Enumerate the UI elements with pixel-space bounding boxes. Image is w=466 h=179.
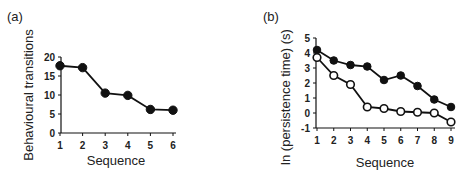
x-tick-label: 5 [148,140,154,151]
y-tick-label: 5 [304,33,310,44]
y-tick-label: 5 [49,109,55,120]
x-tick-label: 4 [125,140,131,151]
data-point [330,72,338,80]
x-axis-title-b: Sequence [356,155,415,170]
data-point [313,46,321,54]
data-point [78,63,86,71]
x-tick-label: 5 [381,135,387,146]
y-tick-label: 3 [304,63,310,74]
x-tick-label: 3 [348,135,354,146]
data-point [347,81,355,89]
data-point [169,106,177,114]
x-axis-title-a: Sequence [87,153,146,168]
data-point [430,109,438,117]
x-tick-label: 8 [431,135,437,146]
data-point [447,118,455,126]
data-point [363,63,371,71]
y-tick-label: 0 [304,108,310,119]
data-point [330,57,338,65]
data-point [347,61,355,69]
data-point [414,108,422,116]
y-axis-title-b: ln (persistence time) (s) [278,29,293,165]
x-tick-label: 9 [448,135,454,146]
series-line-transitions [60,66,173,110]
x-tick-label: 6 [170,140,176,151]
y-axis-title-a: Behavioural transitions [21,29,36,161]
y-tick-label: 10 [44,90,56,101]
data-point [397,72,405,80]
data-point [447,103,455,111]
y-tick-label: 20 [44,52,56,63]
y-tick-label: 2 [304,78,310,89]
x-tick-label: 4 [364,135,370,146]
data-point [397,108,405,116]
data-point [414,82,422,90]
y-tick-label: 1 [304,93,310,104]
y-tick-label: 0 [49,128,55,139]
x-tick-label: 2 [331,135,337,146]
x-tick-label: 1 [57,140,63,151]
data-point [313,54,321,62]
data-point [101,89,109,97]
x-tick-label: 7 [415,135,421,146]
axes-b: -1012345123456789 [301,33,455,147]
panel-label-b: (b) [263,9,279,24]
plot-area-b [313,46,455,126]
data-point [146,105,154,113]
y-tick-label: -1 [301,123,310,134]
x-tick-label: 6 [398,135,404,146]
data-point [56,62,64,70]
chart-a: (a) Behavioural transitions Sequence 051… [7,9,177,168]
chart-b: (b) ln (persistence time) (s) Sequence -… [263,9,455,170]
data-point [430,96,438,104]
panel-label-a: (a) [7,9,23,24]
figure: (a) Behavioural transitions Sequence 051… [0,0,466,179]
data-point [380,76,388,84]
plot-area-a [56,62,177,115]
x-tick-label: 2 [80,140,86,151]
x-tick-label: 3 [102,140,108,151]
data-point [380,105,388,113]
data-point [124,91,132,99]
y-tick-label: 15 [44,71,56,82]
x-tick-label: 1 [314,135,320,146]
y-tick-label: 4 [304,48,310,59]
data-point [363,103,371,111]
